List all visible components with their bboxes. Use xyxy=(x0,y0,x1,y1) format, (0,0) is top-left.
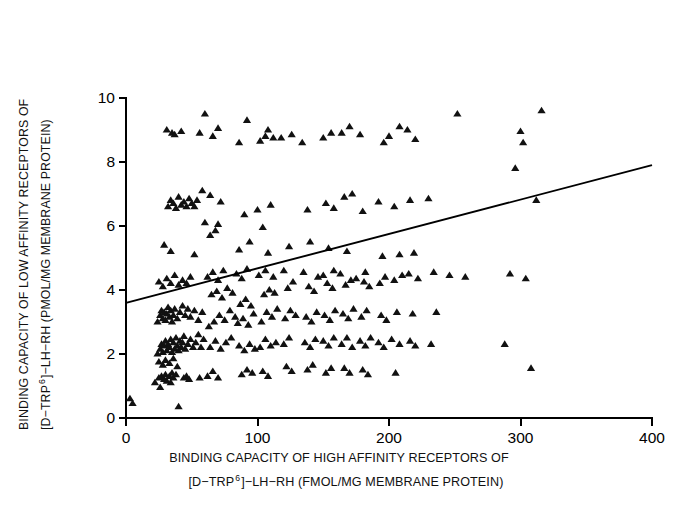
y-axis-title-line-2: [D−TRP6]−LH−RH (PMOL/MG MEMBRANE PROTEIN… xyxy=(37,119,53,430)
x-axis-title-line-2-suffix: ]−LH−RH (FMOL/MG MEMBRANE PROTEIN) xyxy=(241,475,503,489)
y-tick-10 xyxy=(119,97,126,99)
regression-line xyxy=(126,165,652,303)
y-axis-title-line-2-suffix: ]−LH−RH (PMOL/MG MEMBRANE PROTEIN) xyxy=(39,119,53,378)
y-tick-2 xyxy=(119,353,126,355)
x-axis-title-line-2: [D−TRP6]−LH−RH (FMOL/MG MEMBRANE PROTEIN… xyxy=(0,468,678,492)
y-tick-4 xyxy=(119,289,126,291)
regression-line-layer xyxy=(126,98,652,418)
x-tick-400 xyxy=(651,419,653,426)
plot-area: 0246810 0100200300400 xyxy=(126,98,652,418)
y-tick-8 xyxy=(119,161,126,163)
y-axis-title-line-1: BINDING CAPACITY OF LOW AFFINITY RECEPTO… xyxy=(17,99,31,430)
x-tick-label-100: 100 xyxy=(245,429,271,447)
x-axis-title: BINDING CAPACITY OF HIGH AFFINITY RECEPT… xyxy=(0,448,678,492)
x-tick-label-200: 200 xyxy=(376,429,402,447)
y-tick-label-6: 6 xyxy=(106,217,115,235)
y-tick-label-8: 8 xyxy=(106,153,115,171)
x-tick-200 xyxy=(388,419,390,426)
y-tick-label-2: 2 xyxy=(106,345,115,363)
x-axis-title-line-2-prefix: [D−TRP xyxy=(189,475,235,489)
x-axis-title-line-1: BINDING CAPACITY OF HIGH AFFINITY RECEPT… xyxy=(0,448,678,468)
scatter-plot-figure: BINDING CAPACITY OF LOW AFFINITY RECEPTO… xyxy=(0,0,678,513)
y-axis-title: BINDING CAPACITY OF LOW AFFINITY RECEPTO… xyxy=(0,0,100,440)
y-tick-label-4: 4 xyxy=(106,281,115,299)
y-axis-title-line-2-prefix: [D−TRP xyxy=(39,385,53,430)
y-axis-title-superscript: 6 xyxy=(37,378,47,385)
y-tick-label-0: 0 xyxy=(106,409,115,427)
y-tick-label-10: 10 xyxy=(98,89,115,107)
x-tick-100 xyxy=(257,419,259,426)
x-tick-label-400: 400 xyxy=(639,429,665,447)
x-tick-label-300: 300 xyxy=(508,429,534,447)
x-tick-label-0: 0 xyxy=(122,429,131,447)
y-tick-6 xyxy=(119,225,126,227)
x-tick-300 xyxy=(520,419,522,426)
x-tick-0 xyxy=(125,419,127,426)
